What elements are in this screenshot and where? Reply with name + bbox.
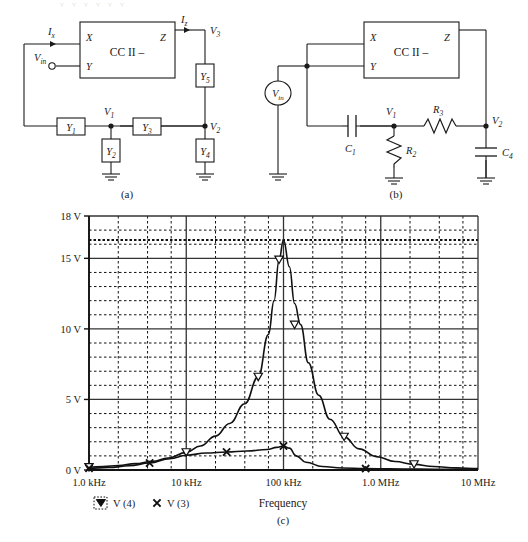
x-tick-label: 1.0 kHz (72, 477, 106, 488)
legend-marker-cross (153, 499, 160, 506)
port-label-x-a: X (85, 32, 93, 43)
element-c4 (475, 148, 497, 156)
node-label-v2-a: V2 (210, 121, 220, 135)
ccii-label-b: CC II – (394, 46, 429, 58)
port-label-z-a: Z (160, 32, 166, 43)
node-label-v2-b: V2 (492, 115, 502, 129)
current-arrow-ix (50, 41, 56, 47)
current-label-iz: Iz (180, 14, 188, 28)
element-r2 (387, 136, 401, 168)
port-label-x-b: X (369, 32, 377, 43)
label-c4: C4 (502, 147, 513, 161)
label-c1: C1 (345, 143, 356, 157)
current-arrow-iz (184, 27, 190, 33)
node-label-v3: V3 (210, 25, 220, 39)
x-tick-label: 1.0 MHz (362, 477, 400, 488)
legend-marker-triangle (96, 500, 105, 507)
node-dot-v2-b (483, 123, 488, 128)
label-r2: R2 (405, 145, 416, 159)
caption-a: (a) (121, 188, 134, 200)
circuit-diagram-b: Vin CC II – X Y Z V1 V2 C1 R2 R3 C4 (b) (264, 8, 528, 200)
x-tick-label: 10 kHz (171, 477, 202, 488)
node-label-v1-b: V1 (386, 106, 396, 120)
y-tick-label: 0 V (66, 465, 82, 476)
node-dot-v2 (202, 123, 207, 128)
caption-c: (c) (277, 514, 290, 527)
port-label-y-a: Y (86, 61, 93, 72)
legend-label-v3[interactable]: V (3) (167, 498, 190, 510)
vin-label-a: Vin (34, 52, 47, 66)
port-label-y-b: Y (370, 61, 377, 72)
x-tick-label: 100 kHz (266, 477, 302, 488)
x-axis-title: Frequency (259, 497, 308, 510)
marker-triangle (290, 321, 298, 328)
label-r3: R3 (432, 104, 443, 118)
node-dot-vin-b (304, 63, 309, 68)
frequency-response-chart: 0 V5 V10 V15 V18 V1.0 kHz10 kHz100 kHz1.… (0, 205, 528, 542)
marker-triangle (275, 256, 283, 263)
node-dot-v1 (108, 123, 113, 128)
caption-b: (b) (390, 188, 403, 200)
y-tick-label: 5 V (66, 394, 82, 405)
element-c1 (348, 115, 356, 137)
element-r3 (424, 119, 456, 133)
current-label-ix: Ix (47, 26, 56, 40)
ccii-label-a: CC II – (110, 46, 145, 58)
legend-label-v4[interactable]: V (4) (113, 498, 136, 510)
circuit-diagram-a: CC II – X Y Z Ix Iz Vin V3 V1 V2 Y1 Y2 Y… (0, 8, 264, 200)
y-tick-label: 15 V (60, 253, 81, 264)
port-label-z-b: Z (444, 32, 450, 43)
vin-terminal-a (49, 63, 55, 69)
node-label-v1-a: V1 (104, 106, 114, 120)
y-tick-label: 18 V (60, 211, 81, 222)
y-tick-label: 10 V (60, 324, 81, 335)
x-tick-label: 10 MHz (461, 477, 496, 488)
node-dot-v1-b (391, 123, 396, 128)
